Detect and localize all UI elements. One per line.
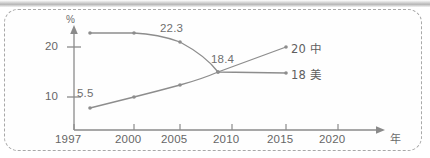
series-line-usa [88,31,288,75]
x-tick-label-2000: 2000 [115,133,141,145]
data-point-china-2010 [216,70,220,74]
x-tick-label-1997: 1997 [55,133,81,145]
data-point-usa-1998 [88,31,92,35]
x-tick-label-2020: 2020 [319,133,345,145]
x-axis-unit-label: 年 [390,130,401,146]
x-tick-label-2005: 2005 [161,133,187,145]
data-label-5-5: 5.5 [77,87,94,99]
data-point-china-1998 [88,106,92,110]
data-point-usa-2000 [132,31,136,35]
series-end-label-china: 20 中 [291,40,321,56]
data-label-22-3: 22.3 [160,22,183,34]
y-axis-unit-label: % [66,14,75,25]
data-point-china-2005 [178,83,182,87]
y-tick-label-10: 10 [45,90,58,102]
data-point-usa-2005 [178,40,182,44]
data-point-china-2015 [284,45,288,49]
y-tick-label-20: 20 [45,40,58,52]
data-label-18-4: 18.4 [211,53,234,65]
series-line-china [88,45,288,110]
x-tick-label-2015: 2015 [267,133,293,145]
x-tick-label-2010: 2010 [213,133,239,145]
data-point-china-2000 [132,95,136,99]
series-end-label-usa: 18 美 [291,66,321,82]
data-point-usa-2015 [284,71,288,75]
y-axis [67,25,81,130]
